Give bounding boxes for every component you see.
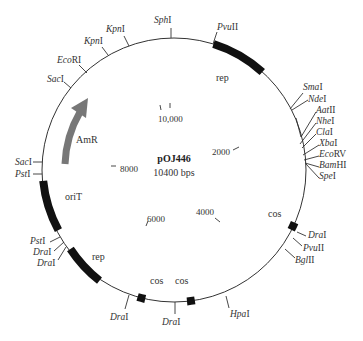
site-label: HpaI: [229, 309, 250, 319]
orit-block: [43, 181, 58, 230]
site-label: DraI: [307, 230, 326, 240]
site-label: SacI: [15, 157, 32, 167]
plasmid-name: pOJ446: [157, 153, 190, 164]
site-label: KpnI: [105, 24, 125, 34]
site-label: XbaI: [318, 138, 337, 148]
feature-label-rep-top: rep: [216, 72, 229, 83]
site-label: PvuII: [302, 243, 324, 253]
feature-label-amr: AmR: [76, 134, 98, 145]
site-label: BamHI: [319, 160, 346, 170]
scale-label-6000: 6000: [147, 214, 166, 224]
feature-label-cos-2: cos: [175, 275, 188, 286]
cos-block-1: [138, 297, 146, 299]
site-label: NdeI: [307, 94, 326, 104]
feature-label-rep-bottom: rep: [92, 251, 105, 262]
feature-label-cos-1: cos: [150, 275, 163, 286]
scale-label-2000: 2000: [212, 147, 231, 157]
site-label: ClaI: [316, 127, 333, 137]
site-label: SpeI: [319, 171, 336, 181]
site-label: DraI: [161, 317, 180, 327]
site-label: PstI: [14, 169, 30, 179]
site-label: PstI: [29, 236, 45, 246]
site-label: SacI: [47, 74, 64, 84]
site-label: SmaI: [303, 82, 323, 92]
feature-label-orit: oriT: [65, 191, 82, 202]
site-label: EcoRI: [56, 55, 81, 65]
cos-block-3: [291, 223, 294, 230]
scale-label-4000: 4000: [196, 207, 215, 217]
scale-label-8000: 8000: [120, 164, 139, 174]
site-label: AatII: [315, 105, 336, 115]
plasmid-size: 10400 bps: [153, 167, 195, 178]
scale-label-10000: 10,000: [158, 114, 183, 124]
rep-block-top: [214, 44, 263, 72]
site-label: NheI: [315, 116, 334, 126]
feature-labels: rep AmR oriT rep cos cos cos: [65, 72, 281, 286]
amr-arrow: [65, 98, 88, 164]
site-label: BglII: [295, 255, 315, 265]
site-label: DraI: [32, 247, 51, 257]
site-label: SphI: [154, 15, 171, 25]
site-label: DraI: [109, 312, 128, 322]
site-label: KpnI: [83, 36, 103, 46]
feature-label-cos-3: cos: [268, 208, 281, 219]
site-label: DraI: [36, 258, 55, 268]
site-label: PvuII: [216, 22, 238, 32]
site-label: EcoRV: [318, 149, 346, 159]
cos-block-2: [187, 300, 195, 301]
plasmid-map: 10,000 2000 8000 4000 6000 pOJ446 10400 …: [0, 0, 363, 341]
